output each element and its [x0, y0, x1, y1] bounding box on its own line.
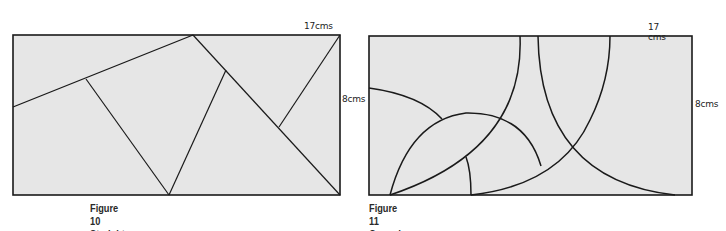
figure-11-title: Figure 11: [369, 202, 406, 228]
figure-11-rectangle: [369, 36, 692, 195]
figure-11-height-label: 8cms: [695, 99, 718, 109]
figure-11-width-label: 17 cms: [648, 22, 666, 42]
figure-11-caption: Figure 11 Curved lines – exercise 3: [369, 202, 406, 231]
figure-11-canvas: [0, 0, 726, 231]
figure-11-subtitle: Curved lines – exercise 3: [369, 228, 406, 231]
